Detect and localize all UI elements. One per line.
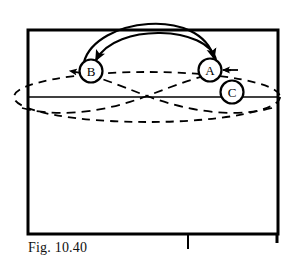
figure-container: B A C Fig. 10.40 <box>0 0 295 267</box>
node-C[interactable]: C <box>221 81 244 104</box>
inner-arc-a-to-b <box>96 33 216 60</box>
node-A[interactable]: A <box>199 59 222 82</box>
node-B[interactable]: B <box>80 60 103 83</box>
outer-rectangle <box>28 30 278 234</box>
node-B-label: B <box>87 64 96 79</box>
node-A-label: A <box>205 63 215 78</box>
node-C-label: C <box>228 85 237 100</box>
figure-caption: Fig. 10.40 <box>28 240 87 256</box>
figure-drawing: B A C <box>0 0 295 267</box>
